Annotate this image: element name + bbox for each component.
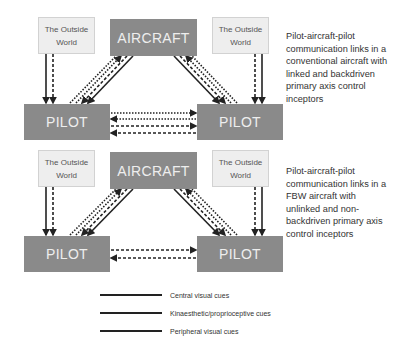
legend-kinaesthetic: Kinaesthetic/proprioceptive cues — [100, 307, 271, 319]
box-label: The Outside — [219, 156, 263, 169]
outside-world-left-bottom: The Outside World — [38, 150, 95, 187]
box-label: World — [56, 36, 77, 49]
pilot-right-bottom: PILOT — [197, 236, 283, 272]
pilot-left-top: PILOT — [24, 104, 110, 140]
legend-line — [100, 330, 162, 332]
box-label: The Outside — [45, 156, 89, 169]
legend-peripheral-visual: Peripheral visual cues — [100, 325, 238, 337]
legend-central-visual: Central visual cues — [100, 289, 229, 301]
legend-label: Kinaesthetic/proprioceptive cues — [170, 310, 271, 317]
pilot-left-bottom: PILOT — [24, 236, 110, 272]
aircraft-box-bottom: AIRCRAFT — [110, 152, 197, 189]
caption-bottom: Pilot-aircraft-pilot communication links… — [286, 165, 392, 241]
box-label: The Outside — [45, 23, 89, 36]
box-label: World — [56, 169, 77, 182]
caption-top: Pilot-aircraft-pilot communication links… — [286, 30, 392, 106]
legend-line — [100, 294, 162, 296]
pilot-right-top: PILOT — [197, 104, 283, 140]
outside-world-right-top: The Outside World — [212, 17, 269, 54]
box-label: World — [230, 36, 251, 49]
legend-label: Peripheral visual cues — [170, 328, 238, 335]
outside-world-left-top: The Outside World — [38, 17, 95, 54]
aircraft-box-top: AIRCRAFT — [110, 19, 197, 56]
legend-label: Central visual cues — [170, 292, 229, 299]
outside-world-right-bottom: The Outside World — [212, 150, 269, 187]
box-label: World — [230, 169, 251, 182]
box-label: The Outside — [219, 23, 263, 36]
legend-line — [100, 312, 162, 314]
